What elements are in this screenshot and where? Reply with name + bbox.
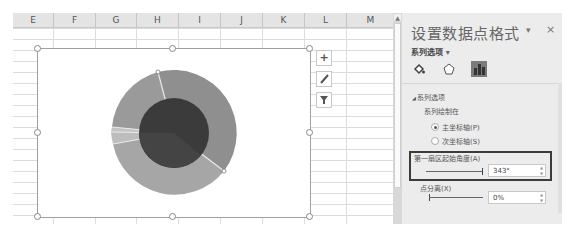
- series-options-dropdown[interactable]: 系列选项 ▾: [411, 46, 450, 57]
- series-options-dropdown-label: 系列选项: [411, 48, 443, 57]
- column-header-e[interactable]: E: [13, 13, 54, 27]
- pane-title: 设置数据点格式: [411, 22, 520, 43]
- column-header-i[interactable]: I: [179, 13, 221, 27]
- resize-handle-bottom[interactable]: [169, 213, 176, 220]
- first-slice-angle-slider[interactable]: [426, 171, 482, 172]
- tab-series-options[interactable]: [471, 61, 487, 77]
- selection-handle[interactable]: [156, 70, 160, 74]
- point-explosion-label: 点分离(X): [420, 183, 451, 193]
- column-header-k[interactable]: K: [263, 13, 305, 27]
- column-header-m[interactable]: M: [347, 13, 395, 27]
- primary-axis-label[interactable]: 主坐标轴(P): [442, 122, 480, 132]
- chart-area[interactable]: [37, 48, 311, 218]
- column-header-j[interactable]: J: [221, 13, 263, 27]
- resize-handle-top-right[interactable]: [306, 45, 313, 52]
- section-header-series-options[interactable]: ◢ 系列选项: [412, 92, 445, 102]
- resize-handle-top[interactable]: [169, 45, 176, 52]
- spinner-arrows-icon[interactable]: ▲▼: [540, 192, 543, 204]
- selection-handle[interactable]: [222, 169, 226, 173]
- resize-handle-bottom-right[interactable]: [306, 213, 313, 220]
- first-slice-angle-spinner[interactable]: 343° ▲▼: [488, 164, 546, 177]
- chevron-down-icon: ▾: [446, 48, 450, 57]
- point-explosion-spinner[interactable]: 0% ▲▼: [488, 191, 546, 204]
- resize-handle-top-left[interactable]: [34, 45, 41, 52]
- vertical-scrollbar[interactable]: ▲: [393, 13, 402, 224]
- column-header-h[interactable]: H: [137, 13, 179, 27]
- plot-series-on-label: 系列绘制在: [424, 106, 459, 116]
- first-slice-angle-value: 343°: [493, 167, 510, 175]
- spinner-arrows-icon[interactable]: ▲▼: [540, 165, 543, 177]
- resize-handle-left[interactable]: [34, 129, 41, 136]
- tab-effects[interactable]: [441, 61, 457, 77]
- grid-line: [346, 28, 347, 224]
- resize-handle-bottom-left[interactable]: [34, 213, 41, 220]
- scroll-up-button[interactable]: ▲: [394, 14, 401, 21]
- close-pane-button[interactable]: ×: [546, 23, 555, 36]
- divider: [402, 83, 562, 84]
- chart-elements-button[interactable]: +: [316, 50, 332, 66]
- pentagon-icon: [442, 62, 456, 76]
- bar-chart-icon: [472, 62, 486, 76]
- tab-fill-line[interactable]: [411, 61, 427, 77]
- secondary-axis-radio[interactable]: [431, 137, 439, 145]
- first-slice-angle-label: 第一扇区起始角度(A): [414, 153, 480, 163]
- pane-options-button[interactable]: ▾: [526, 25, 531, 35]
- section-header-label: 系列选项: [417, 94, 445, 102]
- column-header-g[interactable]: G: [96, 13, 137, 27]
- pane-scrollbar[interactable]: [558, 83, 562, 213]
- brush-icon: [317, 72, 331, 86]
- pane-tabs: [411, 61, 487, 77]
- point-explosion-slider[interactable]: [429, 197, 483, 198]
- column-headers: E F G H I J K L M: [13, 13, 393, 28]
- plus-icon: +: [319, 51, 328, 64]
- filter-icon: [317, 93, 331, 107]
- secondary-axis-label[interactable]: 次坐标轴(S): [442, 136, 480, 146]
- format-data-point-pane: 设置数据点格式 ▾ × 系列选项 ▾ ◢ 系列选项 系列绘制在 主坐标轴(P) …: [402, 13, 562, 224]
- scrollbar-thumb[interactable]: [394, 23, 401, 188]
- resize-handle-right[interactable]: [306, 129, 313, 136]
- column-header-l[interactable]: L: [305, 13, 347, 27]
- primary-axis-radio[interactable]: [431, 123, 439, 131]
- paint-bucket-icon: [412, 62, 426, 76]
- chart-filters-button[interactable]: [316, 92, 332, 108]
- first-slice-angle-slider-thumb[interactable]: [482, 168, 483, 175]
- chart-styles-button[interactable]: [316, 71, 332, 87]
- column-header-f[interactable]: F: [54, 13, 96, 27]
- pie-chart[interactable]: [38, 49, 310, 217]
- point-explosion-value: 0%: [493, 194, 504, 202]
